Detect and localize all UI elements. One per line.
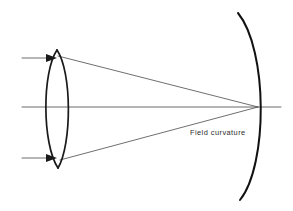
refracted-ray-upper (58, 56, 258, 107)
lens-back-surface (57, 50, 68, 168)
field-curvature-label: Field curvature (190, 128, 246, 137)
optics-diagram-svg: Field curvature (0, 0, 293, 211)
lens-front-surface (46, 50, 58, 168)
field-curvature-diagram: Field curvature (0, 0, 293, 211)
